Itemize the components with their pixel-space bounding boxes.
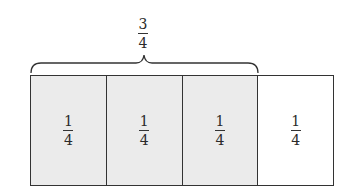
numerator: 1 [140,114,149,128]
fraction-bar [215,130,225,131]
strip-cell-2: 1 4 [106,76,182,185]
strip-cell-1: 1 4 [31,76,106,185]
denominator: 4 [140,133,149,147]
fraction-strip: 1 4 1 4 1 4 1 4 [30,75,334,186]
numerator: 1 [64,114,73,128]
denominator: 4 [291,133,300,147]
numerator: 1 [291,114,300,128]
denominator: 4 [215,133,224,147]
numerator: 1 [215,114,224,128]
strip-cell-4: 1 4 [257,76,333,185]
fraction-bar [139,130,149,131]
strip-cell-3: 1 4 [182,76,258,185]
fraction-bar [63,130,73,131]
fraction-bar [291,130,301,131]
denominator: 4 [64,133,73,147]
curly-brace [0,0,348,80]
